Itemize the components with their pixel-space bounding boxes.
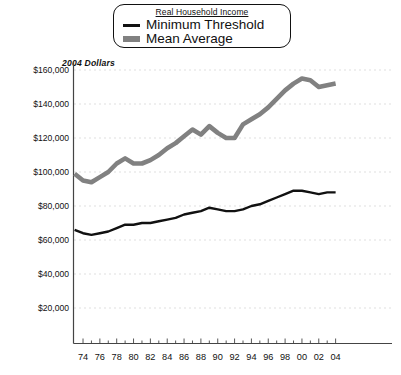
data-series-layer <box>75 79 336 235</box>
series-line-mean-average <box>75 79 336 183</box>
series-line-minimum-threshold <box>75 191 336 235</box>
gridlines <box>75 70 393 308</box>
x-axis-ticks <box>83 339 336 344</box>
plot-area <box>0 0 401 375</box>
chart-container: Real Household Income Minimum Threshold … <box>0 0 401 375</box>
axis-lines <box>74 62 393 344</box>
